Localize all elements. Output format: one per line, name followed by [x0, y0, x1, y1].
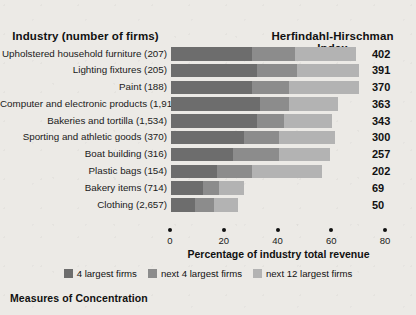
bar-segment-2 — [252, 47, 295, 61]
stacked-bar — [171, 198, 238, 212]
hhi-value: 391 — [372, 63, 412, 77]
bar-segment-1 — [171, 114, 257, 128]
stacked-bar — [171, 131, 335, 145]
bar-segment-2 — [252, 81, 290, 95]
row-label: Lighting fixtures (205) — [0, 63, 167, 77]
bar-segment-1 — [171, 198, 195, 212]
bar-segment-3 — [219, 181, 243, 195]
bar-segment-3 — [279, 148, 330, 162]
stacked-bar — [171, 165, 322, 179]
hhi-value: 202 — [372, 164, 412, 178]
hhi-value: 370 — [372, 80, 412, 94]
figure-caption: Measures of Concentration — [10, 292, 148, 304]
bar-segment-1 — [171, 81, 252, 95]
bar-segment-3 — [297, 64, 359, 78]
bar-segment-1 — [171, 47, 252, 61]
chart-row: Boat building (316)257 — [0, 148, 416, 162]
bar-segment-2 — [257, 64, 297, 78]
legend-label: 4 largest firms — [77, 268, 137, 279]
bar-segment-2 — [244, 131, 279, 145]
x-axis-tick-label: 60 — [326, 235, 337, 246]
x-axis-title: Percentage of industry total revenue — [171, 248, 386, 260]
row-label: Plastic bags (154) — [0, 164, 167, 178]
row-label: Bakery items (714) — [0, 181, 167, 195]
hhi-value: 257 — [372, 147, 412, 161]
legend-label: next 4 largest firms — [161, 268, 242, 279]
legend-swatch-icon — [64, 269, 73, 278]
legend-next-12: next 12 largest firms — [253, 268, 352, 279]
chart-row: Lighting fixtures (205)391 — [0, 64, 416, 78]
chart-row: Sporting and athletic goods (370)300 — [0, 131, 416, 145]
bar-segment-3 — [295, 47, 357, 61]
bar-segment-3 — [214, 198, 238, 212]
bar-segment-3 — [289, 97, 337, 111]
stacked-bar — [171, 148, 330, 162]
x-axis-tick — [383, 228, 387, 232]
industry-column-header: Industry (number of firms) — [0, 30, 171, 42]
row-label: Clothing (2,657) — [0, 198, 167, 212]
stacked-bar — [171, 64, 359, 78]
bar-segment-2 — [195, 198, 214, 212]
bar-segment-3 — [289, 81, 359, 95]
hhi-value: 50 — [372, 198, 412, 212]
x-axis-tick — [168, 228, 172, 232]
hhi-value: 300 — [372, 130, 412, 144]
bar-segment-1 — [171, 181, 203, 195]
bar-segment-3 — [279, 131, 335, 145]
bar-segment-3 — [252, 165, 322, 179]
x-axis-tick — [329, 228, 333, 232]
chart-row: Plastic bags (154)202 — [0, 165, 416, 179]
stacked-bar — [171, 114, 332, 128]
chart-row: Bakery items (714)69 — [0, 181, 416, 195]
bar-segment-2 — [203, 181, 219, 195]
chart-row: Paint (188)370 — [0, 81, 416, 95]
stacked-bar — [171, 97, 338, 111]
bar-segment-1 — [171, 148, 233, 162]
x-axis-tick — [276, 228, 280, 232]
chart-row: Computer and electronic products (1,915)… — [0, 97, 416, 111]
bar-segment-1 — [171, 97, 260, 111]
legend-swatch-icon — [148, 269, 157, 278]
chart-row: Clothing (2,657)50 — [0, 198, 416, 212]
row-label: Bakeries and tortilla (1,534) — [0, 114, 167, 128]
chart-page: Industry (number of firms) Herfindahl-Hi… — [0, 0, 416, 315]
legend-next-4: next 4 largest firms — [148, 268, 242, 279]
row-label: Sporting and athletic goods (370) — [0, 130, 167, 144]
hhi-value: 69 — [372, 181, 412, 195]
bar-chart-plot: Upholstered household furniture (207)402… — [0, 47, 416, 215]
bar-segment-2 — [257, 114, 284, 128]
bar-segment-1 — [171, 64, 257, 78]
legend-swatch-icon — [253, 269, 262, 278]
hhi-value: 363 — [372, 97, 412, 111]
bar-segment-3 — [284, 114, 332, 128]
x-axis-tick-label: 40 — [272, 235, 283, 246]
x-axis-tick-label: 20 — [218, 235, 229, 246]
column-headers: Industry (number of firms) Herfindahl-Hi… — [0, 30, 416, 46]
hhi-value: 402 — [372, 47, 412, 61]
bar-segment-1 — [171, 165, 217, 179]
legend-label: next 12 largest firms — [266, 268, 352, 279]
x-axis-tick-label: 0 — [167, 235, 172, 246]
hhi-value: 343 — [372, 114, 412, 128]
stacked-bar — [171, 181, 244, 195]
x-axis-tick — [222, 228, 226, 232]
row-label: Paint (188) — [0, 80, 167, 94]
legend-4-largest: 4 largest firms — [64, 268, 137, 279]
row-label: Computer and electronic products (1,915) — [0, 97, 167, 111]
bar-segment-2 — [233, 148, 279, 162]
row-label: Boat building (316) — [0, 147, 167, 161]
stacked-bar — [171, 81, 359, 95]
bar-segment-2 — [260, 97, 290, 111]
row-label: Upholstered household furniture (207) — [0, 47, 167, 61]
chart-row: Bakeries and tortilla (1,534)343 — [0, 114, 416, 128]
chart-row: Upholstered household furniture (207)402 — [0, 47, 416, 61]
x-axis-tick-label: 80 — [380, 235, 391, 246]
bar-segment-1 — [171, 131, 244, 145]
chart-legend: 4 largest firmsnext 4 largest firmsnext … — [0, 268, 416, 279]
stacked-bar — [171, 47, 356, 61]
bar-segment-2 — [217, 165, 252, 179]
